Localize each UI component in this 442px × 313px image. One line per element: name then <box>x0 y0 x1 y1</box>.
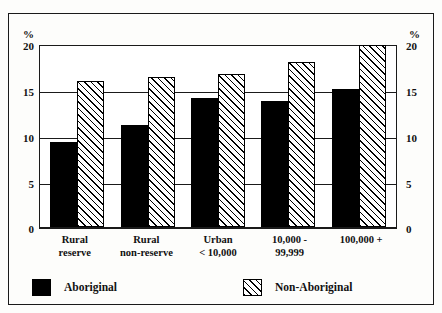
bar-group <box>121 46 175 227</box>
x-axis-labels: RuralreserveRuralnon-reserveUrban< 10,00… <box>39 233 397 267</box>
bar-non-aboriginal <box>77 81 104 227</box>
x-axis-label: Urban< 10,000 <box>183 233 253 267</box>
y-tick-label-5-left: 5 <box>14 179 34 190</box>
x-axis-label: Ruralnon-reserve <box>111 233 181 267</box>
plot-area <box>39 45 397 229</box>
legend-label-non-aboriginal: Non-Aboriginal <box>275 281 352 293</box>
bar-aboriginal <box>121 125 148 227</box>
bar-aboriginal <box>261 101 288 227</box>
bar-non-aboriginal <box>148 77 175 227</box>
bar-non-aboriginal <box>288 62 315 227</box>
legend-swatch-solid-icon <box>32 279 51 296</box>
y-tick-label-5-right: 5 <box>406 179 428 190</box>
bar-aboriginal <box>191 98 218 227</box>
y-axis-unit-right: % <box>409 29 420 40</box>
bars-layer <box>40 46 396 227</box>
x-axis-label: 100,000 + <box>326 233 396 267</box>
legend-item-non-aboriginal: Non-Aboriginal <box>243 279 352 296</box>
bar-group <box>191 46 245 227</box>
bar-group <box>50 46 104 227</box>
bar-non-aboriginal <box>359 45 386 227</box>
plot-wrapper <box>39 45 397 229</box>
x-axis-label: Ruralreserve <box>40 233 110 267</box>
y-axis-unit-left: % <box>23 29 34 40</box>
y-tick-label-10-right: 10 <box>406 133 428 144</box>
bar-non-aboriginal <box>218 74 245 227</box>
y-tick-label-0-left: 0 <box>14 224 34 235</box>
bar-group <box>261 46 315 227</box>
bar-aboriginal <box>332 89 359 227</box>
x-axis-label: 10,000 -99,999 <box>255 233 325 267</box>
chart-legend: Aboriginal Non-Aboriginal <box>9 270 433 304</box>
bar-group <box>332 46 386 227</box>
y-tick-label-20-left: 20 <box>14 41 34 52</box>
legend-item-aboriginal: Aboriginal <box>32 279 117 296</box>
y-tick-label-10-left: 10 <box>14 133 34 144</box>
legend-label-aboriginal: Aboriginal <box>64 281 117 293</box>
y-tick-label-20-right: 20 <box>406 41 428 52</box>
bar-aboriginal <box>50 142 77 227</box>
legend-swatch-hatch-icon <box>243 279 262 296</box>
y-tick-label-0-right: 0 <box>406 224 428 235</box>
y-tick-label-15-right: 15 <box>406 87 428 98</box>
chart-figure: % % 20 15 10 5 0 20 15 10 5 0 Ruralreser… <box>0 0 442 313</box>
y-tick-label-15-left: 15 <box>14 87 34 98</box>
